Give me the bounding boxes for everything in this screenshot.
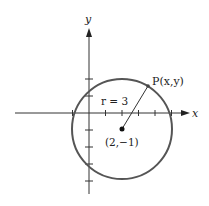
x-axis (15, 110, 190, 116)
y-axis-label: y (84, 13, 92, 26)
point-label: P(x,y) (152, 75, 184, 88)
coordinate-diagram: x y P(x,y) r = 3 (2,−1) (0, 0, 209, 206)
center-label: (2,−1) (105, 136, 139, 148)
point-p (146, 84, 150, 88)
x-axis-label: x (192, 107, 199, 120)
radius-label: r = 3 (101, 95, 128, 107)
x-axis-arrow-icon (181, 110, 190, 116)
radius-segment (122, 86, 148, 129)
y-axis-arrow-icon (86, 28, 92, 37)
center-point (120, 127, 125, 132)
